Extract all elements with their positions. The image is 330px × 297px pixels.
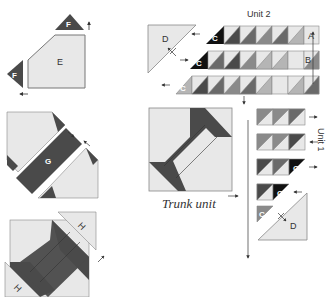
label-f-top: F: [66, 20, 71, 29]
svg-text:C: C: [259, 210, 265, 219]
label-d-top: D: [162, 34, 169, 44]
unit-1-label: Unit 1: [316, 128, 326, 152]
step-2-g-unit: G: [7, 112, 98, 198]
label-d-bottom: D: [290, 221, 297, 231]
arrow-icon: [84, 141, 90, 146]
trunk-unit: Trunk unit: [149, 108, 238, 211]
unit-2-label: Unit 2: [247, 9, 271, 19]
svg-text:C: C: [196, 59, 202, 68]
svg-text:C: C: [180, 84, 186, 93]
label-g: G: [45, 157, 51, 166]
svg-text:B: B: [305, 55, 311, 65]
svg-text:C: C: [277, 189, 283, 198]
svg-text:C: C: [293, 164, 299, 173]
arrow-icon: [98, 256, 104, 262]
d-triangle-top: D: [148, 25, 196, 73]
svg-text:C: C: [212, 34, 218, 43]
label-f-left: F: [12, 71, 17, 80]
step-1-e-f-unit: E F F: [7, 14, 89, 94]
step-3-h-unit: H H: [5, 212, 104, 297]
unit-2: C A C B: [162, 26, 319, 104]
label-e: E: [57, 57, 63, 67]
assembly-diagram: E F F G H H: [0, 0, 330, 297]
trunk-unit-caption: Trunk unit: [162, 196, 216, 211]
